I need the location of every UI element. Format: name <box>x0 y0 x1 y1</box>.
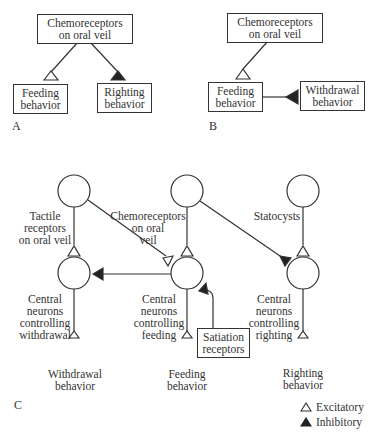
b-feeding-line1: Feeding <box>217 85 254 97</box>
c-label-tactile: Tactile receptors on oral veil <box>18 210 72 246</box>
b-chemo-line1: Chemoreceptors <box>237 16 312 28</box>
c-label-statocysts: Statocysts <box>252 210 302 222</box>
c-box-satiation: Satiation receptors <box>197 328 250 358</box>
c-excitatory-chemo-icon <box>181 246 193 256</box>
b-withdrawal-line1: Withdrawal <box>306 84 360 96</box>
legend-inhibitory: Inhibitory <box>300 416 362 428</box>
excitatory-icon <box>300 402 312 412</box>
c-output-righting: Righting behavior <box>280 367 326 391</box>
a-chemo-line2: on oral veil <box>59 29 111 41</box>
b-box-withdrawal: Withdrawal behavior <box>300 81 365 111</box>
a-excitatory-icon <box>44 71 58 80</box>
b-feeding-line2: behavior <box>215 97 255 109</box>
c-excitatory-stato-icon <box>297 246 309 256</box>
c-inhibitory-satiation-icon <box>199 283 208 294</box>
b-withdrawal-line2: behavior <box>312 96 352 108</box>
b-chemo-line2: on oral veil <box>249 28 301 40</box>
c-line-satiation-to-feeding <box>207 290 213 330</box>
a-box-righting: Righting behavior <box>97 83 152 113</box>
c-circle-central-withdrawal <box>58 257 90 289</box>
panel-label-a: A <box>12 119 21 134</box>
a-line-chemo-righting <box>90 42 118 72</box>
c-excitatory-tactile-icon <box>68 246 80 256</box>
b-inhibitory-icon <box>286 90 298 104</box>
c-label-central-feeding: Central neurons controlling feeding <box>132 293 186 341</box>
c-output-feeding: Feeding behavior <box>164 368 210 392</box>
c-label-chemo: Chemoreceptors on oral veil <box>110 210 186 246</box>
a-righting-line1: Righting <box>104 86 144 98</box>
panel-label-c: C <box>14 398 22 413</box>
c-circle-tactile <box>58 175 90 207</box>
c-circle-central-feeding <box>171 257 203 289</box>
c-circle-statocysts <box>287 175 319 207</box>
c-circle-central-righting <box>287 257 319 289</box>
a-feeding-line1: Feeding <box>22 87 59 99</box>
c-inhibitory-feeding-withdrawal-icon <box>93 268 103 280</box>
c-circle-chemo <box>171 175 203 207</box>
a-inhibitory-icon <box>111 71 125 80</box>
b-excitatory-icon <box>236 69 250 79</box>
a-box-feeding: Feeding behavior <box>13 84 68 114</box>
inhibitory-icon <box>300 417 312 427</box>
panel-label-b: B <box>209 119 217 134</box>
a-chemo-line1: Chemoreceptors <box>47 17 122 29</box>
a-line-chemo-feeding <box>51 42 78 72</box>
b-line-chemo-feeding <box>243 41 268 69</box>
c-output-withdrawal: Withdrawal behavior <box>40 368 110 392</box>
c-excitatory-tactile-feeding-icon <box>163 256 173 266</box>
a-box-chemoreceptors: Chemoreceptors on oral veil <box>37 14 133 44</box>
c-label-central-withdrawal: Central neurons controlling withdrawal <box>16 293 74 341</box>
a-feeding-line2: behavior <box>20 99 60 111</box>
b-box-chemoreceptors: Chemoreceptors on oral veil <box>227 13 323 43</box>
legend-excitatory: Excitatory <box>300 401 364 413</box>
a-righting-line2: behavior <box>104 98 144 110</box>
c-label-central-righting: Central neurons controlling righting <box>246 293 302 341</box>
b-box-feeding: Feeding behavior <box>208 82 263 112</box>
